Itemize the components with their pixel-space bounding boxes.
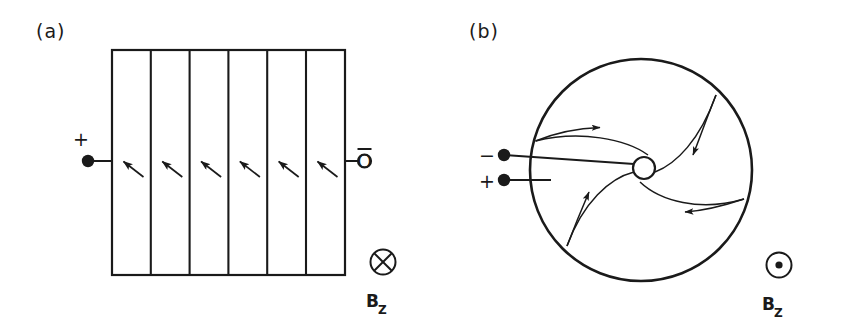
current-arrow <box>279 162 299 178</box>
filled-dot-icon <box>498 174 510 186</box>
current-arrow <box>124 162 144 178</box>
rectangle-divider-lines <box>151 50 306 275</box>
spiral-path-arrow-segment <box>693 95 716 155</box>
right-terminal-glyph: O <box>357 150 372 172</box>
panel-a <box>82 50 396 275</box>
spiral-paths-group <box>536 95 745 246</box>
spiral-path-arrow-segment <box>567 192 589 246</box>
corbino-hub-circle <box>633 157 655 179</box>
panel-a-field-subscript: Z <box>378 303 387 317</box>
figure-root: (a) (b) + O B Z − + B Z <box>0 0 841 334</box>
b-field-out-of-page-icon <box>767 253 792 278</box>
spiral-path <box>567 172 634 246</box>
current-arrow <box>162 162 182 178</box>
upper-terminal-sign: − <box>479 144 495 166</box>
upper-terminal-lead <box>504 155 634 164</box>
panel-b-label: (b) <box>469 20 499 42</box>
filled-dot-icon <box>498 149 510 161</box>
lower-terminal[interactable] <box>498 174 551 186</box>
filled-dot-icon <box>82 155 94 167</box>
spiral-path <box>655 95 716 172</box>
current-arrow <box>318 162 338 178</box>
panel-a-label: (a) <box>36 20 65 42</box>
b-field-into-page-icon <box>371 250 396 275</box>
left-terminal[interactable] <box>82 155 112 167</box>
current-arrow <box>201 162 221 178</box>
physics-figure: (a) (b) + O B Z − + B Z <box>0 0 841 334</box>
panel-b-field-subscript: Z <box>774 306 783 320</box>
lower-terminal-sign: + <box>479 170 495 192</box>
left-terminal-sign: + <box>73 128 89 150</box>
current-arrow <box>240 162 260 178</box>
spiral-path <box>536 136 649 155</box>
spiral-path <box>640 182 744 205</box>
upper-terminal[interactable] <box>498 149 634 164</box>
panel-b <box>498 59 792 281</box>
corbino-outer-circle <box>530 59 752 281</box>
field-center-dot <box>775 261 782 268</box>
